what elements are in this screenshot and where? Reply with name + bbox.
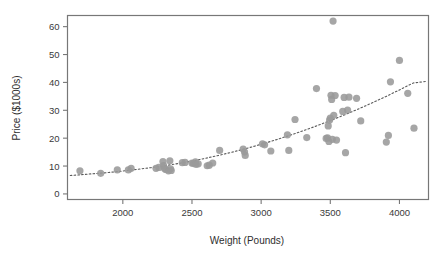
data-point: [209, 159, 216, 166]
data-point: [387, 78, 394, 85]
data-point: [332, 92, 339, 99]
data-point: [181, 159, 188, 166]
data-point: [166, 157, 173, 164]
scatter-plot-figure: 20002500300035004000 0102030405060 Weigh…: [0, 0, 445, 261]
y-axis-title: Price ($1000s): [11, 75, 22, 140]
y-tick-label: 60: [49, 21, 60, 32]
data-point: [383, 138, 390, 145]
data-point: [396, 57, 403, 64]
data-point: [410, 125, 417, 132]
chart-canvas: 20002500300035004000 0102030405060 Weigh…: [0, 0, 445, 261]
data-point: [261, 141, 268, 148]
data-point: [216, 147, 223, 154]
data-point: [333, 137, 340, 144]
data-point: [404, 90, 411, 97]
data-point: [267, 147, 274, 154]
x-tick-label: 2500: [181, 207, 202, 218]
x-axis-title: Weight (Pounds): [210, 235, 284, 246]
y-tick-label: 50: [49, 49, 60, 60]
data-point: [168, 167, 175, 174]
data-point: [76, 167, 83, 174]
x-tick-label: 3500: [320, 207, 341, 218]
data-point: [195, 160, 202, 167]
data-point: [291, 116, 298, 123]
data-point: [285, 147, 292, 154]
data-point: [114, 166, 121, 173]
data-point: [128, 165, 135, 172]
data-point: [97, 170, 104, 177]
data-point: [345, 94, 352, 101]
data-point: [242, 152, 249, 159]
y-tick-label: 0: [54, 188, 59, 199]
x-tick-label: 2000: [112, 207, 133, 218]
data-point: [342, 149, 349, 156]
y-tick-label: 30: [49, 105, 60, 116]
data-point: [313, 85, 320, 92]
data-point: [329, 17, 336, 24]
x-tick-label: 3000: [251, 207, 272, 218]
data-point: [385, 132, 392, 139]
data-point: [353, 95, 360, 102]
data-point: [330, 112, 337, 119]
y-tick-label: 40: [49, 77, 60, 88]
data-point: [303, 134, 310, 141]
y-tick-label: 20: [49, 133, 60, 144]
y-tick-label: 10: [49, 161, 60, 172]
figure-background: [0, 0, 445, 261]
data-point: [344, 106, 351, 113]
data-point: [357, 117, 364, 124]
data-point: [284, 131, 291, 138]
x-tick-label: 4000: [389, 207, 410, 218]
